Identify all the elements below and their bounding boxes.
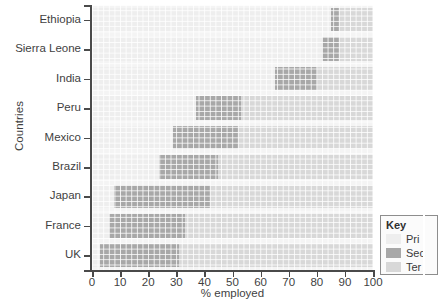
bar-segment-secondary [275,67,317,91]
y-tick [84,226,91,228]
bar-row [92,96,373,120]
bar-segment-tertiary [339,37,373,61]
bar-segment-primary [92,96,196,120]
y-tick [84,167,91,169]
bar-segment-tertiary [317,67,373,91]
y-tick [84,108,91,110]
legend-label: Ter [406,261,421,273]
bar-segment-primary [92,244,100,268]
bar-segment-secondary [114,185,210,209]
y-tick [84,79,91,81]
bar-segment-secondary [196,96,241,120]
bar-segment-tertiary [185,214,373,238]
bar-segment-secondary [109,214,185,238]
y-tick [84,20,91,22]
bar-segment-primary [92,37,322,61]
bar-segment-secondary [173,126,238,150]
y-tick [84,270,91,272]
y-tick [84,138,91,140]
bar-segment-tertiary [179,244,373,268]
legend-swatch-secondary [386,248,401,258]
y-tick [84,5,91,7]
y-tick [84,255,91,257]
y-tick [84,49,91,51]
y-tick-label-ethiopia: Ethiopia [0,13,81,25]
plot-area [92,5,373,270]
legend-swatch-primary [386,234,401,244]
y-tick-label-india: India [0,72,81,84]
bar-segment-primary [92,214,109,238]
y-tick-label-brazil: Brazil [0,160,81,172]
bar-segment-tertiary [339,8,373,32]
legend-swatch-tertiary [386,262,401,272]
bar-segment-primary [92,67,275,91]
bar-row [92,155,373,179]
bar-segment-secondary [100,244,179,268]
y-tick-label-uk: UK [0,248,81,260]
y-tick-label-france: France [0,219,81,231]
bar-segment-primary [92,126,173,150]
legend: Key PriSecTer [380,215,438,275]
bar-row [92,8,373,32]
y-tick-label-sierra-leone: Sierra Leone [0,42,81,54]
y-axis-title: Countries [13,81,25,171]
y-tick-label-mexico: Mexico [0,131,81,143]
bar-row [92,185,373,209]
bar-segment-primary [92,155,159,179]
bar-segment-primary [92,185,114,209]
bar-segment-secondary [331,8,339,32]
bar-segment-secondary [322,37,339,61]
y-tick [84,196,91,198]
y-tick-label-japan: Japan [0,189,81,201]
bar-row [92,126,373,150]
legend-label: Pri [406,233,419,245]
bar-row [92,37,373,61]
x-axis-title: % employed [92,287,373,299]
legend-title: Key [386,219,406,231]
bar-segment-tertiary [238,126,373,150]
bar-segment-tertiary [210,185,373,209]
bar-row [92,67,373,91]
bar-segment-tertiary [241,96,373,120]
bar-segment-tertiary [218,155,373,179]
bar-row [92,214,373,238]
bar-segment-primary [92,8,331,32]
page-edge [423,0,425,306]
bar-row [92,244,373,268]
y-tick-label-peru: Peru [0,101,81,113]
bar-segment-secondary [159,155,218,179]
